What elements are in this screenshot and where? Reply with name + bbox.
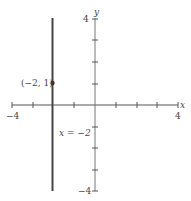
y-min-label: −4 xyxy=(78,186,92,196)
x-min-label: −4 xyxy=(6,111,20,121)
x-axis-label: x xyxy=(180,100,185,110)
point-label: (−2, 1) xyxy=(21,78,53,88)
line-equation-label: x = −2 xyxy=(59,128,91,138)
y-max-label: 4 xyxy=(83,14,89,24)
coordinate-plane: (−2, 1) x = −2 −4 4 x 4 y −4 xyxy=(0,0,191,201)
y-axis-label: y xyxy=(93,7,100,17)
x-max-label: 4 xyxy=(175,111,181,121)
